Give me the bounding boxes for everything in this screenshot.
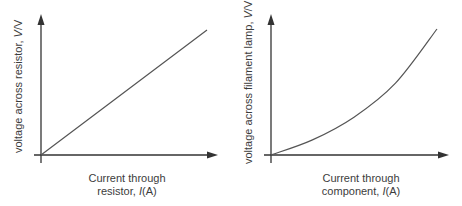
left-y-axis-arrow-icon — [38, 14, 45, 25]
left-x-axis-label: Current throughresistor, I(A) — [72, 172, 182, 198]
right-y-axis-arrow-icon — [268, 14, 275, 25]
right-x-axis-arrow-icon — [438, 152, 449, 159]
right-y-axis-label: voltage across filament lamp, V/V — [242, 1, 254, 164]
right-chart-axes — [264, 14, 449, 163]
right-chart-curve — [271, 29, 437, 155]
left-chart-axes — [34, 14, 218, 163]
right-x-axis-label: Current throughcomponent, I(A) — [306, 172, 416, 198]
left-y-axis-label: voltage across resistor, V/V — [12, 20, 24, 153]
left-x-axis-arrow-icon — [207, 152, 218, 159]
left-chart-line — [41, 30, 207, 155]
